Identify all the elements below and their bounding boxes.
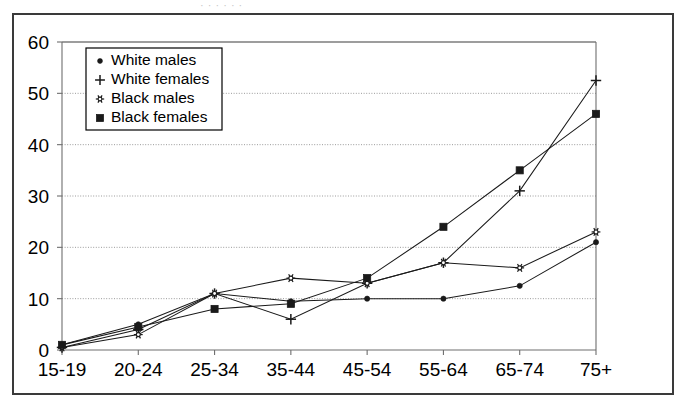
x-axis-tick-label: 20-24 bbox=[114, 359, 163, 380]
marker-star-center bbox=[213, 292, 217, 296]
marker-filled-circle bbox=[517, 283, 522, 288]
marker-star-center bbox=[518, 266, 522, 270]
legend-item-label: Black males bbox=[111, 89, 195, 106]
y-axis-tick-label: 10 bbox=[28, 289, 49, 310]
line-chart-plot: 0102030405060 15-1920-2425-3435-4445-545… bbox=[0, 0, 690, 415]
series-black-males bbox=[58, 228, 601, 351]
x-axis-tick-label: 55-64 bbox=[419, 359, 468, 380]
marker-filled-circle bbox=[441, 296, 446, 301]
series-black-females bbox=[58, 110, 599, 348]
x-axis-tick-label: 65-74 bbox=[495, 359, 544, 380]
y-axis-tick-label: 60 bbox=[28, 32, 49, 53]
marker-star-center bbox=[594, 230, 598, 234]
y-axis-tick-labels: 0102030405060 bbox=[28, 32, 62, 361]
marker-filled-circle bbox=[593, 240, 598, 245]
marker-filled-circle bbox=[98, 59, 103, 64]
marker-filled-square bbox=[97, 115, 104, 122]
x-axis-tick-label: 25-34 bbox=[190, 359, 239, 380]
marker-filled-square bbox=[592, 110, 599, 117]
marker-filled-square bbox=[287, 300, 294, 307]
marker-filled-square bbox=[211, 305, 218, 312]
legend-item-label: White males bbox=[111, 51, 197, 68]
chart-legend: White malesWhite femalesBlack malesBlack… bbox=[86, 48, 222, 130]
marker-filled-square bbox=[440, 223, 447, 230]
x-axis-tick-label: 15-19 bbox=[38, 359, 87, 380]
marker-star-center bbox=[289, 276, 293, 280]
marker-filled-square bbox=[58, 341, 65, 348]
x-axis-tick-label: 45-54 bbox=[343, 359, 392, 380]
x-axis-tick-labels: 15-1920-2425-3435-4445-5455-6465-7475+ bbox=[38, 350, 612, 380]
y-axis-tick-label: 30 bbox=[28, 186, 49, 207]
marker-filled-square bbox=[516, 167, 523, 174]
y-axis-tick-label: 20 bbox=[28, 237, 49, 258]
chart-figure: · · · · · · 0102030405060 15-1920-2425-3… bbox=[0, 0, 690, 415]
series-line bbox=[62, 114, 596, 345]
marker-star-center bbox=[98, 97, 102, 101]
marker-star-center bbox=[441, 261, 445, 265]
y-axis-tick-label: 40 bbox=[28, 135, 49, 156]
marker-filled-square bbox=[135, 323, 142, 330]
y-axis-tick-label: 0 bbox=[38, 340, 49, 361]
marker-filled-square bbox=[364, 275, 371, 282]
marker-star-center bbox=[136, 333, 140, 337]
legend-item-label: Black females bbox=[111, 108, 208, 125]
x-axis-tick-label: 75+ bbox=[580, 359, 612, 380]
marker-open-star bbox=[286, 274, 295, 282]
legend-item-label: White females bbox=[111, 70, 209, 87]
marker-filled-circle bbox=[365, 296, 370, 301]
y-axis-tick-label: 50 bbox=[28, 83, 49, 104]
x-axis-tick-label: 35-44 bbox=[267, 359, 316, 380]
marker-open-star bbox=[515, 264, 524, 272]
